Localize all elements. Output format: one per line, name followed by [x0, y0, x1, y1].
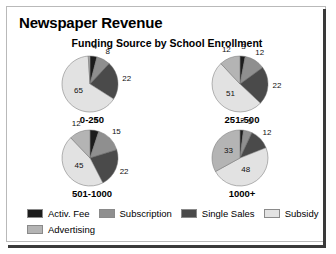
- legend-row-secondary: Advertising: [27, 221, 317, 237]
- pie-panel-2: 501-1000 515224512: [17, 129, 167, 201]
- pie-category-label-0: 0-250: [17, 114, 167, 125]
- pie-chart-1: [211, 55, 269, 113]
- pie-category-label-2: 501-1000: [17, 188, 167, 199]
- pie-slice-label: 5: [248, 117, 252, 126]
- legend-label: Activ. Fee: [48, 208, 90, 219]
- pie-slice-label: 12: [72, 119, 81, 128]
- frame-bottom-shadow: [8, 245, 326, 248]
- legend-swatch-icon: [27, 209, 43, 218]
- pie-slice-label: 51: [226, 89, 235, 98]
- pie-slice-label: 45: [75, 161, 84, 170]
- pie-slice-label: 2: [240, 116, 244, 125]
- pie-chart-3: [211, 129, 269, 187]
- pie-category-label-3: 1000+: [167, 188, 317, 199]
- pie-slice-label: 22: [272, 81, 281, 90]
- chart-frame: Newspaper Revenue Funding Source by Scho…: [6, 6, 326, 242]
- chart-subtitle: Funding Source by School Enrollment: [7, 37, 327, 49]
- legend-row-primary: Activ. FeeSubscriptionSingle SalesSubsid…: [27, 205, 317, 221]
- legend-item-4[interactable]: Advertising: [27, 224, 95, 235]
- pie-slice-label: 4: [92, 42, 96, 51]
- legend-label: Advertising: [48, 224, 95, 235]
- pie-chart-2: [61, 129, 119, 187]
- pie-slice-label: 65: [74, 86, 83, 95]
- legend-label: Subsidy: [285, 208, 319, 219]
- pie-chart-0: [61, 55, 119, 113]
- pie-slice-label: 5: [94, 116, 98, 125]
- pie-panel-3: 1000+ 25124833: [167, 129, 317, 201]
- legend-swatch-icon: [99, 209, 115, 218]
- pie-slice-label: 48: [241, 165, 250, 174]
- pie-slice-label: 15: [112, 127, 121, 136]
- legend-swatch-icon: [27, 225, 43, 234]
- pie-slice-label: 12: [263, 128, 272, 137]
- frame-right-shadow: [323, 9, 326, 245]
- legend-swatch-icon: [181, 209, 197, 218]
- legend-item-0[interactable]: Activ. Fee: [27, 208, 90, 219]
- legend-label: Single Sales: [202, 208, 255, 219]
- legend-item-3[interactable]: Subsidy: [264, 208, 319, 219]
- pie-slice-label: 12: [222, 45, 231, 54]
- pie-slice-label: 33: [224, 146, 233, 155]
- pie-slice-label: 12: [255, 48, 264, 57]
- pie-slice-label: 22: [120, 167, 129, 176]
- legend-label: Subscription: [120, 208, 172, 219]
- legend-item-2[interactable]: Single Sales: [181, 208, 255, 219]
- legend-item-1[interactable]: Subscription: [99, 208, 172, 219]
- legend-swatch-icon: [264, 209, 280, 218]
- chart-legend: Activ. FeeSubscriptionSingle SalesSubsid…: [27, 205, 317, 237]
- pie-slice-label: 8: [106, 47, 110, 56]
- pie-panel-0: 0-250 482265: [17, 55, 167, 127]
- pie-slice-label: 3: [241, 42, 245, 51]
- pie-slice-label: 22: [122, 74, 131, 83]
- page-title: Newspaper Revenue: [19, 14, 162, 31]
